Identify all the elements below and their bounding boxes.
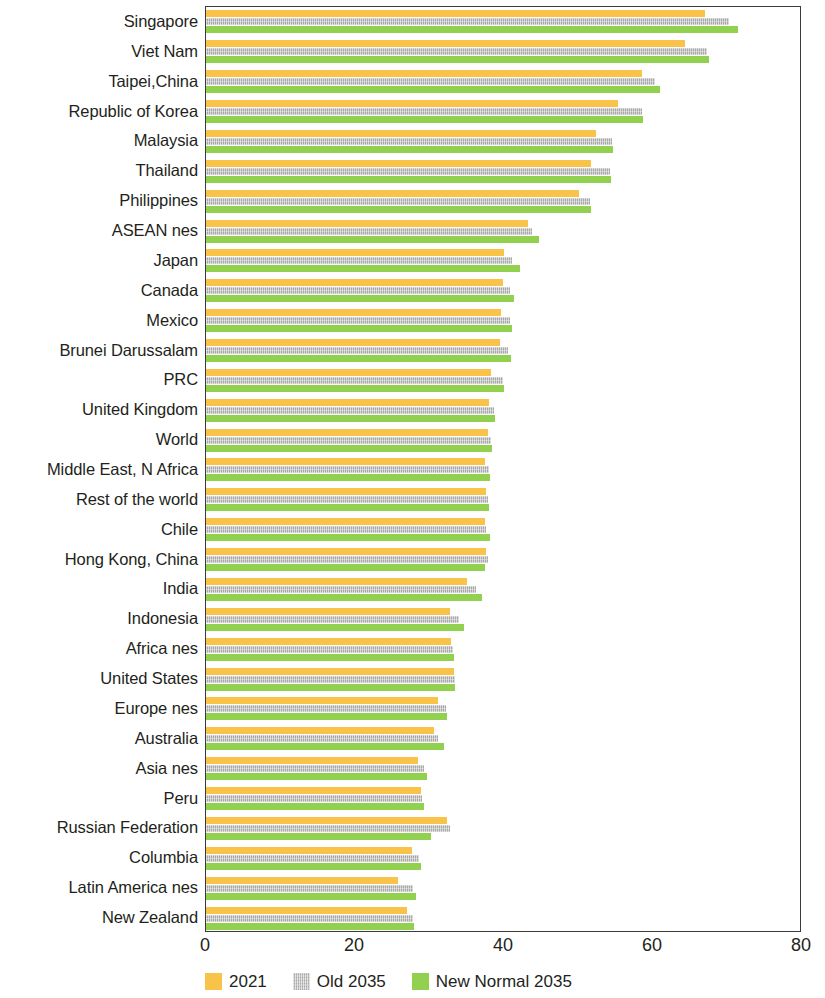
bar-1: [206, 347, 508, 354]
bar-1: [206, 676, 455, 683]
bar-group: [206, 814, 800, 844]
bar-0: [206, 518, 485, 525]
bar-0: [206, 668, 454, 675]
bar-2: [206, 863, 421, 870]
bar-2: [206, 773, 427, 780]
bar-2: [206, 146, 613, 153]
y-axis-label: Thailand: [0, 162, 198, 179]
x-axis-tick: 0: [200, 936, 210, 954]
bar-1: [206, 616, 459, 623]
bar-1: [206, 317, 510, 324]
bar-1: [206, 257, 512, 264]
bar-1: [206, 795, 422, 802]
bar-group: [206, 37, 800, 67]
y-axis-label: Rest of the world: [0, 491, 198, 508]
y-axis-label: Malaysia: [0, 132, 198, 149]
legend-item[interactable]: New Normal 2035: [412, 973, 572, 990]
legend-item[interactable]: 2021: [205, 973, 267, 990]
bar-1: [206, 437, 491, 444]
y-axis-label: Hong Kong, China: [0, 551, 198, 568]
chart-legend: 2021Old 2035New Normal 2035: [205, 968, 572, 994]
bar-0: [206, 817, 447, 824]
bar-group: [206, 186, 800, 216]
bar-0: [206, 279, 503, 286]
square-swatch-green-icon: [412, 973, 429, 990]
bar-1: [206, 168, 610, 175]
bar-0: [206, 220, 528, 227]
y-axis-label: New Zealand: [0, 909, 198, 926]
bar-group: [206, 754, 800, 784]
bar-1: [206, 138, 612, 145]
bar-group: [206, 425, 800, 455]
y-axis-label: Chile: [0, 521, 198, 538]
bar-group: [206, 903, 800, 933]
bar-2: [206, 534, 490, 541]
x-axis-tick-labels: 020406080: [205, 936, 801, 964]
bar-1: [206, 855, 419, 862]
bar-group: [206, 664, 800, 694]
bar-group: [206, 724, 800, 754]
y-axis-label: Europe nes: [0, 700, 198, 717]
bar-2: [206, 743, 444, 750]
bar-1: [206, 108, 642, 115]
x-axis-tick: 20: [344, 936, 364, 954]
bar-2: [206, 56, 709, 63]
bar-0: [206, 190, 579, 197]
bar-0: [206, 488, 486, 495]
bar-2: [206, 833, 431, 840]
y-axis-label: Japan: [0, 252, 198, 269]
bar-2: [206, 474, 490, 481]
legend-item[interactable]: Old 2035: [293, 973, 386, 990]
bar-group: [206, 97, 800, 127]
bar-1: [206, 18, 729, 25]
bar-2: [206, 923, 414, 930]
bar-group: [206, 7, 800, 37]
y-axis-label: Asia nes: [0, 760, 198, 777]
bar-1: [206, 646, 453, 653]
plot-area: [205, 6, 801, 932]
bar-1: [206, 287, 510, 294]
bar-group: [206, 276, 800, 306]
bar-group: [206, 156, 800, 186]
grouped-bar-chart: SingaporeViet NamTaipei,ChinaRepublic of…: [0, 0, 825, 998]
bar-2: [206, 415, 495, 422]
bar-1: [206, 377, 503, 384]
bar-0: [206, 638, 451, 645]
y-axis-label: Middle East, N Africa: [0, 461, 198, 478]
bar-1: [206, 78, 655, 85]
bar-0: [206, 160, 591, 167]
square-swatch-orange-icon: [205, 973, 222, 990]
bar-1: [206, 735, 438, 742]
y-axis-label: Taipei,China: [0, 73, 198, 90]
y-axis-label: PRC: [0, 371, 198, 388]
x-axis-tick: 60: [642, 936, 662, 954]
bar-2: [206, 325, 512, 332]
bar-0: [206, 249, 504, 256]
bar-group: [206, 365, 800, 395]
bar-0: [206, 429, 488, 436]
bar-1: [206, 198, 590, 205]
bar-group: [206, 485, 800, 515]
bar-2: [206, 116, 643, 123]
bar-group: [206, 784, 800, 814]
bar-group: [206, 694, 800, 724]
bar-0: [206, 847, 412, 854]
bar-group: [206, 246, 800, 276]
x-axis-tick: 40: [493, 936, 513, 954]
bar-0: [206, 399, 489, 406]
bar-1: [206, 48, 707, 55]
y-axis-label: Indonesia: [0, 610, 198, 627]
bar-0: [206, 578, 467, 585]
bar-rows: [206, 7, 800, 931]
y-axis-label: ASEAN nes: [0, 222, 198, 239]
bar-0: [206, 70, 642, 77]
y-axis-label: Singapore: [0, 13, 198, 30]
bar-group: [206, 336, 800, 366]
y-axis-label: Philippines: [0, 192, 198, 209]
y-axis-label: Mexico: [0, 312, 198, 329]
legend-label: 2021: [229, 973, 267, 990]
bar-0: [206, 548, 486, 555]
bar-0: [206, 369, 491, 376]
legend-label: Old 2035: [317, 973, 386, 990]
bar-1: [206, 466, 489, 473]
